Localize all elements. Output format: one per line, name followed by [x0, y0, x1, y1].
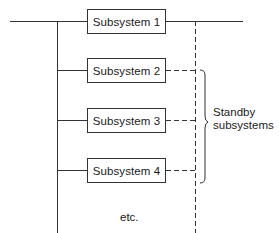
subsystem-1-box: Subsystem 1 [87, 9, 166, 34]
subsystem-4-label: Subsystem 4 [93, 165, 161, 177]
subsystem-2-label: Subsystem 2 [93, 65, 161, 77]
standby-label-line1: Standby [213, 106, 255, 119]
subsystem-1-label: Subsystem 1 [93, 16, 161, 28]
standby-label-line2: subsystems [213, 119, 274, 132]
subsystem-3-label: Subsystem 3 [93, 115, 161, 127]
brace-icon [200, 70, 208, 183]
subsystem-2-box: Subsystem 2 [87, 58, 166, 83]
subsystem-3-box: Subsystem 3 [87, 108, 166, 133]
continuation-label: etc. [120, 211, 139, 224]
subsystem-4-box: Subsystem 4 [87, 158, 166, 183]
